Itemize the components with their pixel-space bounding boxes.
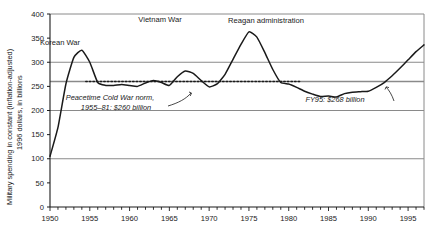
y-axis-title-line2: 1996 dollars, in billions bbox=[15, 75, 24, 150]
x-tick-label-1965: 1965 bbox=[161, 214, 178, 223]
annotation-fy95-value: FY95: $268 billion bbox=[305, 95, 364, 104]
y-tick-label-250: 250 bbox=[31, 82, 44, 91]
military-spending-line-chart: Military spending in constant (inflation… bbox=[0, 0, 436, 242]
x-tick-label-1985: 1985 bbox=[320, 214, 337, 223]
annotation-vietnam-war: Vietnam War bbox=[138, 15, 182, 24]
x-tick-label-1980: 1980 bbox=[280, 214, 297, 223]
y-tick-label-100: 100 bbox=[31, 154, 44, 163]
annotation-peacetime-norm-line1: Peacetime Cold War norm, bbox=[66, 93, 155, 102]
chart-background bbox=[0, 0, 436, 242]
x-tick-label-1990: 1990 bbox=[360, 214, 377, 223]
y-tick-label-300: 300 bbox=[31, 58, 44, 67]
y-tick-label-0: 0 bbox=[40, 203, 44, 212]
x-tick-label-1975: 1975 bbox=[240, 214, 257, 223]
chart-container: Military spending in constant (inflation… bbox=[0, 0, 436, 242]
x-tick-label-1995: 1995 bbox=[400, 214, 417, 223]
x-tick-label-1950: 1950 bbox=[42, 214, 59, 223]
x-tick-label-1970: 1970 bbox=[201, 214, 218, 223]
y-tick-label-50: 50 bbox=[36, 179, 44, 188]
y-tick-label-200: 200 bbox=[31, 106, 44, 115]
y-axis-title-line1: Military spending in constant (inflation… bbox=[5, 49, 14, 205]
annotation-peacetime-norm-line2: 1955–81: $260 billion bbox=[81, 103, 151, 112]
x-tick-label-1960: 1960 bbox=[121, 214, 138, 223]
x-tick-label-1955: 1955 bbox=[81, 214, 98, 223]
y-tick-label-150: 150 bbox=[31, 130, 44, 139]
y-tick-label-400: 400 bbox=[31, 10, 44, 19]
annotation-korean-war: Korean War bbox=[40, 38, 81, 47]
annotation-reagan-administration: Reagan administration bbox=[228, 16, 304, 25]
